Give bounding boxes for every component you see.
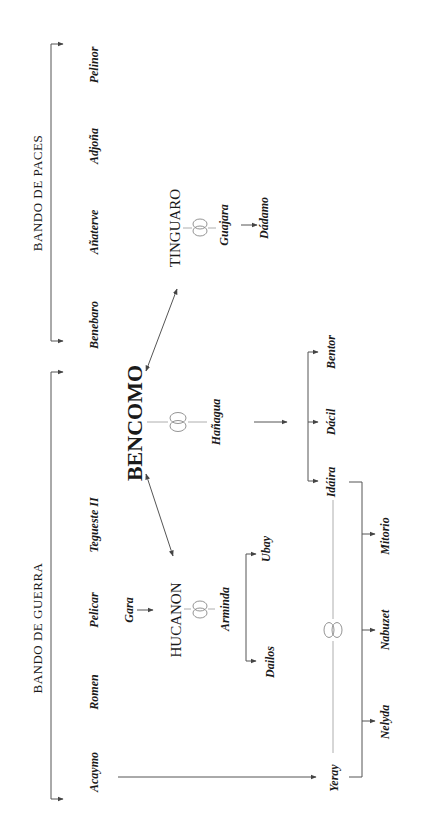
peace-faction-label: BANDO DE PACES (30, 135, 45, 251)
person-idaira: Idáira (324, 467, 338, 499)
person-nabuzet: Nabuzet (378, 609, 392, 651)
sibling-link-bencomo-tinguaro (146, 289, 177, 371)
children-bracket-yeray-idaira (349, 482, 375, 777)
person-hucanon: HUCANON (168, 582, 184, 657)
marriage-bencomo-hanagua (147, 413, 207, 432)
war-faction-bracket (51, 372, 63, 799)
person-dadamo: Dádamo (257, 197, 271, 240)
children-bracket-bencomo (308, 352, 318, 481)
person-benebaro: Benebaro (87, 301, 101, 350)
marriage-yeray-idaira (324, 500, 342, 753)
marriage-hucanon-arminda (184, 601, 215, 618)
sibling-link-bencomo-hucanon (146, 474, 173, 556)
person-tinguaro: TINGUARO (167, 189, 183, 267)
marriage-rings-icon (324, 623, 342, 638)
person-pelinor: Pelinor (87, 46, 101, 83)
person-pelicar: Pelicar (87, 592, 101, 628)
person-gara: Gara (122, 597, 136, 622)
children-bracket-hucanon (246, 554, 256, 661)
marriage-rings-icon (193, 601, 207, 618)
person-bentor: Bentor (324, 335, 338, 370)
person-nelyda: Nelyda (378, 705, 392, 741)
person-ubay: Ubay (259, 535, 273, 562)
person-acaymo: Acaymo (87, 752, 101, 793)
marriage-rings-icon (170, 413, 186, 432)
person-guajara: Guajara (217, 204, 231, 245)
person-adjona: Adjoña (87, 128, 101, 165)
marriage-rings-icon (193, 219, 207, 236)
person-dailos: Dailos (263, 646, 277, 679)
person-romen: Romen (87, 674, 101, 711)
war-faction-label: BANDO DE GUERRA (30, 562, 45, 693)
genealogy-diagram: BANDO DE PACES BANDO DE GUERRA Pelinor A… (0, 0, 432, 839)
person-mitorio: Mitorio (378, 517, 392, 555)
person-dacil: Dácil (324, 408, 338, 436)
marriage-tinguaro-guajara (183, 219, 216, 236)
person-yeray: Yeray (327, 764, 341, 792)
person-bencomo: BENCOMO (122, 365, 147, 481)
person-arminda: Arminda (218, 587, 232, 632)
peace-faction-bracket (51, 44, 63, 341)
person-tegueste-ii: Tegueste II (87, 496, 101, 553)
person-anaterve: Añaterve (87, 209, 101, 255)
person-hanagua: Hañagua (209, 399, 223, 447)
